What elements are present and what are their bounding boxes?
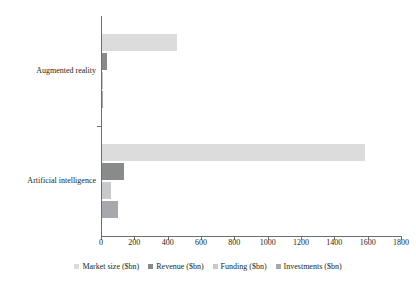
bar bbox=[102, 144, 365, 161]
bar bbox=[102, 182, 111, 199]
x-axis-tick-label: 200 bbox=[128, 238, 140, 248]
chart-legend: Market size ($bn)Revenue ($bn)Funding ($… bbox=[0, 262, 416, 271]
x-axis-tick-label: 1400 bbox=[326, 238, 342, 248]
bar bbox=[102, 91, 103, 108]
plot-area bbox=[101, 16, 401, 236]
bar bbox=[102, 34, 177, 51]
x-axis-line bbox=[101, 236, 401, 237]
y-axis-category-label: Artificial intelligence bbox=[0, 176, 96, 186]
legend-swatch-icon bbox=[148, 264, 153, 269]
legend-item[interactable]: Funding ($bn) bbox=[213, 262, 267, 271]
y-axis-category-label: Augmented reality bbox=[0, 66, 96, 76]
x-axis-tick-label: 1200 bbox=[293, 238, 309, 248]
legend-label: Funding ($bn) bbox=[221, 262, 267, 271]
x-axis-tick-label: 0 bbox=[99, 238, 103, 248]
bar bbox=[102, 72, 103, 89]
bar-chart: 020040060080010001200140016001800 Augmen… bbox=[0, 0, 416, 286]
bar bbox=[102, 201, 118, 218]
x-axis-tick-label: 400 bbox=[162, 238, 174, 248]
legend-item[interactable]: Investments ($bn) bbox=[276, 262, 342, 271]
bar bbox=[102, 163, 124, 180]
x-axis-tick-label: 1800 bbox=[393, 238, 409, 248]
legend-item[interactable]: Revenue ($bn) bbox=[148, 262, 203, 271]
legend-label: Market size ($bn) bbox=[82, 262, 139, 271]
x-axis-tick-label: 600 bbox=[195, 238, 207, 248]
legend-label: Investments ($bn) bbox=[284, 262, 342, 271]
legend-swatch-icon bbox=[276, 264, 281, 269]
legend-label: Revenue ($bn) bbox=[156, 262, 203, 271]
x-axis-tick-label: 1000 bbox=[260, 238, 276, 248]
x-axis-tick-label: 800 bbox=[228, 238, 240, 248]
legend-swatch-icon bbox=[74, 264, 79, 269]
legend-item[interactable]: Market size ($bn) bbox=[74, 262, 139, 271]
bar bbox=[102, 53, 107, 70]
legend-swatch-icon bbox=[213, 264, 218, 269]
x-axis-tick-label: 1600 bbox=[360, 238, 376, 248]
y-axis-tick bbox=[97, 126, 101, 127]
